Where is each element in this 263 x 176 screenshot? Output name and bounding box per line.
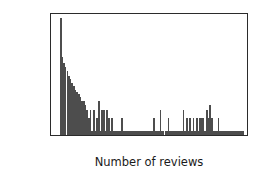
- y-minor-tick-mark: [50, 62, 51, 63]
- plot-area: 100101102 02000400060008000: [50, 13, 248, 136]
- y-minor-tick-mark: [50, 94, 51, 95]
- y-minor-tick-mark: [50, 67, 51, 68]
- histogram-bar: [243, 131, 245, 135]
- y-minor-tick-mark: [50, 90, 51, 91]
- x-tick-mark: [193, 135, 194, 136]
- y-minor-tick-mark: [50, 24, 51, 25]
- y-minor-tick-mark: [50, 105, 51, 106]
- y-minor-tick-mark: [50, 92, 51, 93]
- x-tick-mark: [148, 135, 149, 136]
- y-tick-mark: [50, 88, 51, 89]
- y-minor-tick-mark: [50, 58, 51, 59]
- y-minor-tick-mark: [50, 51, 51, 52]
- y-minor-tick-mark: [50, 118, 51, 119]
- y-minor-tick-mark: [50, 19, 51, 20]
- histogram-figure: Number of apps 100101102 020004000600080…: [0, 0, 263, 176]
- y-tick-mark: [50, 45, 51, 46]
- y-minor-tick-mark: [50, 32, 51, 33]
- y-minor-tick-mark: [50, 49, 51, 50]
- x-tick-mark: [60, 135, 61, 136]
- y-minor-tick-mark: [50, 97, 51, 98]
- y-minor-tick-mark: [50, 75, 51, 76]
- y-tick-mark: [50, 131, 51, 132]
- y-minor-tick-mark: [50, 47, 51, 48]
- y-minor-tick-mark: [50, 54, 51, 55]
- y-minor-tick-mark: [50, 15, 51, 16]
- y-minor-tick-mark: [50, 101, 51, 102]
- x-tick-mark: [104, 135, 105, 136]
- x-axis-label: Number of reviews: [50, 155, 248, 169]
- bar-series: [51, 14, 247, 135]
- x-tick-mark: [237, 135, 238, 136]
- y-minor-tick-mark: [50, 110, 51, 111]
